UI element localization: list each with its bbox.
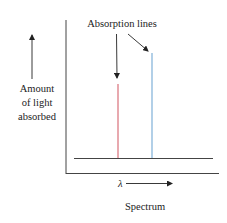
arrow-to-red-line-icon — [117, 34, 118, 78]
lambda-symbol: λ — [117, 178, 123, 189]
y-axis-label-line-1: Amount — [20, 83, 55, 94]
y-axis-label-line-2: of light — [22, 97, 53, 108]
absorption-spectrum-diagram: Absorption lines Amount of light absorbe… — [0, 0, 227, 223]
arrow-to-blue-line-icon — [128, 34, 148, 51]
absorption-lines-label: Absorption lines — [87, 18, 157, 29]
y-axis-label-line-3: absorbed — [18, 111, 57, 122]
x-axis-label: Spectrum — [125, 201, 165, 212]
